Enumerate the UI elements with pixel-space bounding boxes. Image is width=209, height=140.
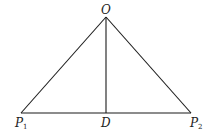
- segment-O-P1: [21, 17, 106, 113]
- label-P1: P1: [14, 116, 28, 131]
- label-P2-subscript: 2: [198, 123, 202, 131]
- label-D: D: [100, 116, 111, 130]
- triangle-diagram: O P1 D P2: [0, 0, 209, 140]
- label-O: O: [101, 3, 111, 17]
- label-P2: P2: [189, 116, 203, 131]
- label-P1-subscript: 1: [23, 123, 27, 131]
- segment-O-P2: [106, 17, 191, 113]
